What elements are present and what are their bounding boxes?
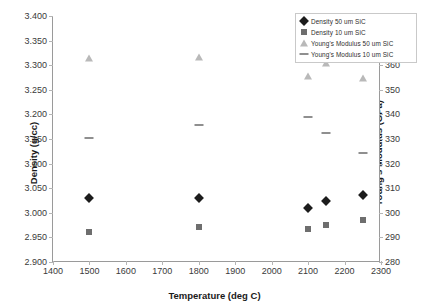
y-axis-right-tick [379, 213, 383, 214]
data-point-marker [358, 152, 367, 154]
x-axis-tick-label: 1900 [225, 266, 245, 276]
y-axis-right-tick-label: 290 [385, 232, 400, 242]
y-axis-left-tick [49, 188, 53, 189]
data-point-marker [194, 193, 204, 203]
data-point-marker [85, 54, 93, 61]
data-point-marker [321, 197, 331, 207]
y-axis-title-left: Density (g/cc) [28, 121, 39, 183]
x-axis-tick-label: 2300 [371, 266, 391, 276]
y-axis-left-tick [49, 16, 53, 17]
data-point-marker [323, 222, 329, 228]
data-point-marker [360, 217, 366, 223]
y-axis-left-tick-label: 3.300 [24, 60, 47, 70]
y-axis-left-tick-label: 3.000 [24, 208, 47, 218]
data-point-marker [195, 53, 203, 60]
legend-item[interactable]: Young's Modulus 10 um SiC [299, 49, 413, 59]
x-axis-tick-label: 2100 [298, 266, 318, 276]
y-axis-right-tick-label: 320 [385, 159, 400, 169]
y-axis-left-tick-label: 3.200 [24, 109, 47, 119]
y-axis-left-tick [49, 90, 53, 91]
legend-marker-icon [299, 27, 309, 37]
x-axis-tick [89, 261, 90, 265]
y-axis-left-tick-label: 3.100 [24, 159, 47, 169]
data-point-marker [359, 74, 367, 81]
legend-label: Young's Modulus 50 um SiC [311, 40, 393, 47]
chart-container: Density (g/cc) Young's Modulus (GPa) Tem… [0, 0, 429, 305]
y-axis-left-tick-label: 3.150 [24, 134, 47, 144]
y-axis-right-tick [379, 164, 383, 165]
data-point-marker [304, 73, 312, 80]
y-axis-right-tick-label: 310 [385, 183, 400, 193]
legend-label: Density 50 um SiC [311, 18, 366, 25]
x-axis-tick [53, 261, 54, 265]
x-axis-tick [272, 261, 273, 265]
data-point-marker [85, 137, 94, 139]
x-axis-tick [235, 261, 236, 265]
x-axis-tick-label: 1700 [152, 266, 172, 276]
y-axis-right-tick [379, 188, 383, 189]
data-point-marker [196, 224, 202, 230]
y-axis-left-tick-label: 3.250 [24, 85, 47, 95]
x-axis-tick-label: 1600 [116, 266, 136, 276]
legend-marker-icon [299, 38, 309, 48]
y-axis-right-tick-label: 300 [385, 208, 400, 218]
y-axis-left-tick-label: 3.400 [24, 11, 47, 21]
legend-marker-icon [299, 16, 309, 26]
y-axis-left-tick [49, 41, 53, 42]
legend-item[interactable]: Young's Modulus 50 um SiC [299, 38, 413, 48]
legend-item[interactable]: Density 10 um SiC [299, 27, 413, 37]
x-axis-tick [345, 261, 346, 265]
data-point-marker [86, 229, 92, 235]
x-axis-tick [126, 261, 127, 265]
legend-item[interactable]: Density 50 um SiC [299, 16, 413, 26]
y-axis-right-tick [379, 237, 383, 238]
y-axis-right-tick [379, 139, 383, 140]
legend-label: Young's Modulus 10 um SiC [311, 51, 393, 58]
data-point-marker [194, 124, 203, 126]
y-axis-right-tick-label: 330 [385, 134, 400, 144]
y-axis-right-tick-label: 350 [385, 85, 400, 95]
data-point-marker [358, 190, 368, 200]
legend-label: Density 10 um SiC [311, 29, 366, 36]
y-axis-left-tick-label: 2.950 [24, 232, 47, 242]
y-axis-left-tick [49, 213, 53, 214]
y-axis-left-tick [49, 164, 53, 165]
y-axis-right-tick [379, 65, 383, 66]
x-axis-title: Temperature (deg C) [0, 290, 429, 301]
x-axis-tick-label: 1400 [43, 266, 63, 276]
x-axis-tick-label: 1800 [189, 266, 209, 276]
y-axis-right-tick [379, 114, 383, 115]
y-axis-left-tick [49, 237, 53, 238]
y-axis-left-tick [49, 139, 53, 140]
x-axis-tick [199, 261, 200, 265]
y-axis-left-tick [49, 114, 53, 115]
x-axis-tick [162, 261, 163, 265]
data-point-marker [304, 116, 313, 118]
x-axis-tick [381, 261, 382, 265]
legend-marker-icon [299, 49, 309, 59]
data-point-marker [322, 132, 331, 134]
x-axis-tick-label: 2000 [262, 266, 282, 276]
x-axis-tick [308, 261, 309, 265]
data-point-marker [305, 226, 311, 232]
x-axis-tick-label: 1500 [79, 266, 99, 276]
x-axis-tick-label: 2200 [335, 266, 355, 276]
y-axis-left-tick-label: 3.050 [24, 183, 47, 193]
y-axis-left-tick-label: 3.350 [24, 36, 47, 46]
chart-legend: Density 50 um SiCDensity 10 um SiCYoung'… [295, 13, 417, 63]
data-point-marker [84, 193, 94, 203]
y-axis-left-tick [49, 65, 53, 66]
y-axis-right-tick [379, 90, 383, 91]
data-point-marker [303, 203, 313, 213]
y-axis-right-tick-label: 340 [385, 109, 400, 119]
